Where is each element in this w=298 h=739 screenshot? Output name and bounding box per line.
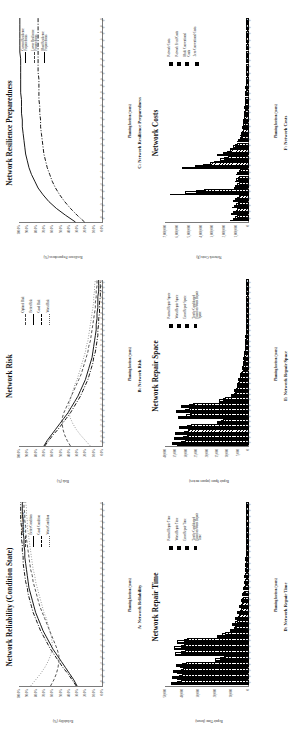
x-axis-label: Planning horizon (years) — [128, 503, 132, 687]
legend-item[interactable]: Good Risk — [38, 283, 43, 325]
bar — [180, 427, 248, 428]
legend: Optimal RiskBetter RiskGood RiskWorst Ri… — [22, 283, 55, 325]
y-tick-label: 3,000,000 — [210, 225, 214, 237]
legend-item[interactable]: Network Costs — [168, 21, 173, 69]
y-axis-label: Resilience Preparedness (%) — [23, 255, 103, 259]
panel-d: Network Repair Time50,00040,00030,00020,… — [152, 493, 292, 721]
bar — [233, 624, 248, 625]
legend-item[interactable]: Better Risk — [30, 283, 35, 325]
legend-item[interactable]: Traffic Conditioned Based on Worst Repai… — [193, 283, 203, 331]
legend-item[interactable]: Better Condition — [30, 505, 35, 547]
bar — [177, 678, 248, 679]
y-tick-label: 40.0% — [67, 689, 71, 697]
bar — [221, 658, 248, 659]
y-tick-label: 70.0% — [42, 225, 46, 233]
legend-item[interactable]: Current Resilience Preparedness — [22, 21, 29, 63]
bar — [187, 663, 248, 664]
legend-item[interactable]: Error Repair Time — [184, 505, 189, 553]
y-axis-ticks: 100.0%90.0%80.0%70.0%60.0%50.0%40.0%30.0… — [19, 448, 102, 474]
legend-label: Normal Repair Time — [168, 516, 171, 541]
legend-label: Zero Conventional Costs — [194, 27, 197, 57]
legend-label: Optimal Condition — [22, 512, 25, 535]
bar — [234, 212, 248, 213]
legend-swatch-icon — [22, 314, 27, 325]
panel-title: Network Resilience Preparedness — [6, 9, 14, 257]
bar — [172, 683, 248, 684]
y-tick-label: 80.0% — [34, 225, 38, 233]
legend-item[interactable]: Normal Repair Space — [168, 283, 173, 331]
bar — [190, 405, 248, 406]
bar — [217, 154, 248, 155]
y-axis-label: Reliability (%) — [23, 719, 103, 723]
y-tick-label: 0 — [246, 689, 250, 691]
legend-item[interactable]: Zero Conventional Costs — [194, 21, 199, 69]
y-tick-label: 10,000 — [225, 449, 229, 458]
x-axis-ticks: 2020202120222023202420252026202720282029… — [249, 503, 275, 687]
bar — [182, 670, 248, 671]
y-tick-label: 1,000,000 — [234, 225, 238, 237]
legend-item[interactable]: Worst Risk — [47, 283, 52, 325]
legend-item[interactable]: Optimal Risk — [22, 283, 27, 325]
bar — [242, 600, 248, 601]
legend-item[interactable]: Good Condition — [38, 505, 43, 547]
y-axis-label: Risk (%) — [23, 479, 103, 483]
legend-label: Better Condition — [30, 514, 33, 534]
x-axis-label: Planning horizon (years) — [274, 19, 278, 223]
legend-item[interactable]: Error Repair Space — [184, 283, 189, 331]
bar — [177, 672, 248, 673]
legend-swatch-icon — [176, 542, 181, 553]
legend-item[interactable]: Optimal Condition — [22, 505, 27, 547]
legend-item[interactable]: Worst Repair Space — [176, 283, 181, 331]
legend-swatch-icon — [22, 536, 27, 547]
legend-swatch-icon — [22, 52, 27, 63]
y-tick-label: 30.0% — [75, 689, 79, 697]
bar — [189, 430, 248, 431]
y-tick-label: 100.0% — [17, 225, 21, 235]
legend-swatch-icon — [168, 58, 173, 69]
panel-c: Network Resilience Preparedness100.0%90.… — [6, 9, 146, 257]
y-tick-label: 10.0% — [92, 449, 96, 457]
y-axis-ticks: 100.0%90.0%80.0%70.0%60.0%50.0%40.0%30.0… — [19, 224, 102, 250]
y-tick-label: 25,000 — [194, 449, 198, 458]
legend-label: Worst Repair Space — [176, 295, 179, 319]
bar — [179, 655, 248, 656]
line-series — [62, 280, 97, 446]
legend-item[interactable]: Traffic Conditioned Based on Worst Repai… — [193, 505, 203, 553]
legend-label: Good Condition — [38, 515, 41, 534]
y-tick-label: 0 — [246, 449, 250, 451]
bar — [177, 444, 248, 445]
y-tick-label: 60.0% — [50, 689, 54, 697]
bar — [186, 441, 248, 442]
bar — [242, 133, 248, 134]
bar — [182, 167, 248, 168]
bar — [176, 653, 248, 654]
bar — [173, 443, 248, 444]
bar — [222, 421, 248, 422]
legend-item[interactable]: Worst Repair Time — [176, 505, 181, 553]
bar — [182, 412, 248, 413]
bar — [190, 409, 248, 410]
x-axis-label: Planning horizon (years) — [274, 281, 278, 447]
legend-item[interactable]: Network Fixed Costs — [176, 21, 181, 69]
legend-swatch-icon — [32, 52, 37, 63]
bar — [224, 153, 248, 154]
y-tick-label: 30,000 — [196, 689, 200, 698]
bar — [182, 442, 248, 443]
legend-item[interactable]: Most Resilience Preparedness — [42, 21, 49, 63]
legend-swatch-icon — [38, 536, 43, 547]
x-axis-label: Planning horizon (years) — [128, 281, 132, 447]
panel-title: Network Reliability (Condition State) — [6, 493, 14, 721]
bar — [222, 402, 248, 403]
legend-item[interactable]: Lower Resilience Preparedness — [32, 21, 39, 63]
legend-swatch-icon — [193, 320, 198, 331]
bar — [178, 682, 248, 683]
y-tick-label: 7,000,000 — [163, 225, 167, 237]
legend-item[interactable]: Normal Repair Time — [168, 505, 173, 553]
legend-label: Network Fixed Costs — [176, 31, 179, 57]
bar — [185, 645, 248, 646]
legend-label: Traffic Conditioned Based on Worst Repai… — [193, 511, 203, 541]
legend-label: Worst Condition — [47, 515, 50, 535]
legend-item[interactable]: Worst Condition — [47, 505, 52, 547]
legend-item[interactable]: Multi Conventional Costs — [184, 21, 191, 69]
x-axis-ticks: 2020202120222023202420252026202720282029… — [249, 19, 275, 223]
